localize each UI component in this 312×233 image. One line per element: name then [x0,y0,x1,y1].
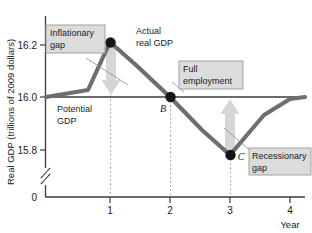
data-point-c [225,150,235,160]
actual-real-gdp-curve [46,42,305,155]
x-tick-label-3: 3 [227,205,233,216]
full-employment-line1: Full [183,64,198,74]
x-axis-title: Year [280,219,299,230]
origin-label: 0 [31,192,37,203]
inflationary-gap-callout: Inflationary gap [46,25,105,53]
business-cycle-chart-figure: A B C Inflationary gap Full employment R… [0,0,312,233]
actual-real-gdp-line1: Actual [136,26,161,36]
point-c-label: C [238,151,245,162]
data-point-a [105,37,115,47]
y-tick-label-16-2: 16.2 [18,40,38,51]
point-b-label: B [160,103,166,114]
recessionary-gap-line2: gap [252,163,267,173]
full-employment-line2: employment [183,76,233,86]
y-tick-label-16-0: 16.0 [18,92,38,103]
x-tick-label-1: 1 [107,205,113,216]
actual-real-gdp-label: Actual real GDP [136,26,173,48]
data-point-b [165,92,175,102]
chart-canvas: A B C Inflationary gap Full employment R… [0,0,312,233]
recessionary-gap-line1: Recessionary [252,151,307,161]
y-tick-label-15-8: 15.8 [18,145,38,156]
potential-gdp-line1: Potential [57,104,92,114]
recessionary-gap-arrow [221,99,240,150]
x-tick-label-2: 2 [167,205,173,216]
recessionary-gap-callout: Recessionary gap [249,148,311,175]
inflationary-gap-line2: gap [50,40,65,50]
x-tick-label-4: 4 [287,205,293,216]
potential-gdp-label: Potential GDP [57,104,92,126]
y-axis-break-icon [41,168,50,185]
actual-real-gdp-line2: real GDP [136,38,173,48]
full-employment-callout: Full employment [179,61,243,89]
potential-gdp-line2: GDP [57,116,77,126]
inflationary-gap-line1: Inflationary [50,28,95,38]
y-axis-title: Real GDP (trillions of 2009 dollars) [5,39,16,185]
